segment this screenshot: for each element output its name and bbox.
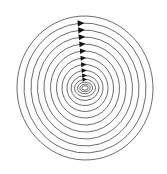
phase-portrait-canvas: [0, 0, 167, 174]
phase-portrait-figure: Concentric closed orbits with clockwise …: [0, 0, 167, 174]
figure-background: [0, 0, 167, 174]
